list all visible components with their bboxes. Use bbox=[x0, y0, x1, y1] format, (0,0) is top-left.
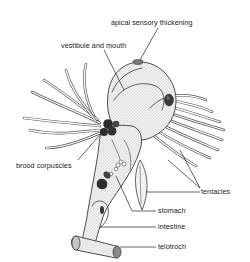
label-stomach: stomach bbox=[158, 207, 186, 214]
label-intestine: intestine bbox=[158, 223, 185, 230]
label-tentacles: tentacles bbox=[201, 188, 230, 195]
left-tentacles bbox=[24, 64, 100, 148]
stalk bbox=[82, 119, 147, 250]
label-vestibule-and-mouth: vestibule and mouth bbox=[61, 42, 126, 49]
label-apical-sensory-thickening: apical sensory thickening bbox=[111, 19, 193, 26]
entoproct-illustration bbox=[0, 0, 250, 262]
apical-thickening bbox=[133, 60, 143, 65]
label-brood-corpuscles: brood corpuscles bbox=[16, 162, 72, 169]
label-telotroch: telotroch bbox=[158, 243, 186, 250]
diagram-canvas: apical sensory thickening vestibule and … bbox=[0, 0, 250, 262]
